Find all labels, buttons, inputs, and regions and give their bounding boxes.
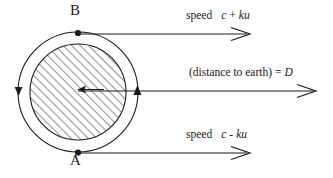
rotation-arrowhead-left: [15, 87, 23, 96]
distance-text: (distance to earth) =: [189, 66, 281, 78]
label-point-b: B: [70, 2, 80, 19]
rotation-arrowhead-right: [133, 85, 141, 95]
speed-bottom-c: c: [221, 128, 226, 140]
speed-bottom-word: speed: [186, 128, 212, 140]
figure-canvas: B A speedc+ku (distance to earth) =D spe…: [0, 0, 333, 178]
hatched-star-body: [30, 44, 126, 140]
label-distance-to-earth: (distance to earth) =D: [189, 66, 293, 78]
speed-top-operator: +: [229, 9, 236, 21]
speed-top-ku: ku: [239, 9, 250, 21]
diagram-svg: [0, 0, 333, 178]
distance-variable: D: [284, 66, 292, 78]
light-ray-bottom: [78, 147, 250, 160]
label-speed-top: speedc+ku: [186, 9, 250, 21]
speed-bottom-operator: -: [229, 128, 233, 140]
label-point-a: A: [70, 152, 81, 169]
speed-top-c: c: [221, 9, 226, 21]
point-b-dot: [75, 30, 81, 36]
speed-bottom-ku: ku: [236, 128, 247, 140]
speed-top-word: speed: [186, 9, 212, 21]
label-speed-bottom: speedc-ku: [186, 128, 247, 140]
light-ray-top: [78, 28, 250, 41]
